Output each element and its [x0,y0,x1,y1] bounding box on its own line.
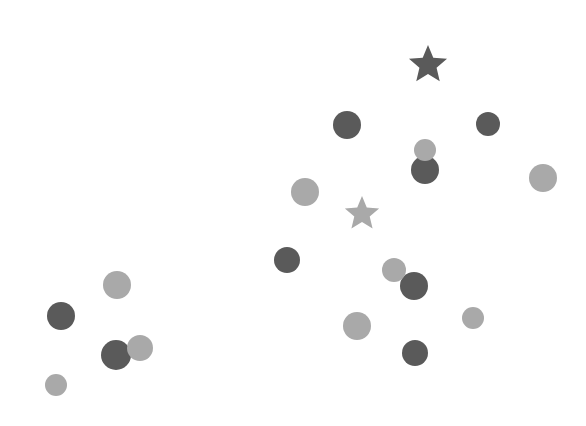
point-light [343,312,371,340]
point-light [103,271,131,299]
point-light [127,335,153,361]
point-light [414,139,436,161]
star-marker [345,196,379,229]
point-dark [101,340,131,370]
point-light [45,374,67,396]
point-dark [47,302,75,330]
point-dark [333,111,361,139]
point-light [291,178,319,206]
point-light [462,307,484,329]
point-dark [476,112,500,136]
star-marker [409,45,447,81]
point-light [529,164,557,192]
point-light [382,258,406,282]
point-dark [402,340,428,366]
scatter-plot [0,0,586,426]
point-dark [274,247,300,273]
points-layer [45,45,557,396]
